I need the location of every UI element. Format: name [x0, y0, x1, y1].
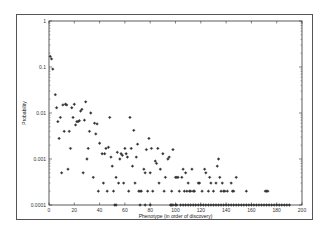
data-point — [204, 171, 207, 174]
y-tick-label: 0.1 — [39, 64, 46, 70]
data-point — [60, 171, 63, 174]
data-point — [130, 147, 133, 150]
data-point — [83, 119, 86, 122]
data-point — [180, 176, 183, 179]
data-point — [221, 182, 224, 185]
data-point — [87, 147, 90, 150]
data-point — [207, 190, 210, 193]
data-point — [230, 182, 233, 185]
data-point — [127, 190, 130, 193]
data-point — [105, 147, 108, 150]
y-tick-label: 0.01 — [36, 110, 46, 116]
data-point — [88, 130, 91, 133]
data-point — [134, 182, 137, 185]
y-tick-label: 0.001 — [33, 156, 46, 162]
data-point — [245, 190, 248, 193]
data-point — [161, 152, 164, 155]
data-point — [212, 190, 215, 193]
data-point — [67, 168, 70, 171]
data-point — [159, 168, 162, 171]
data-point — [115, 176, 118, 179]
data-point — [74, 124, 77, 127]
x-tick-label: 180 — [273, 207, 282, 213]
data-point — [70, 106, 73, 109]
y-axis-label: Probability — [21, 101, 27, 125]
data-point — [145, 148, 148, 151]
data-point — [132, 129, 135, 132]
data-point — [148, 137, 151, 140]
data-point — [84, 100, 87, 103]
data-point — [89, 112, 92, 115]
data-point — [98, 142, 101, 145]
data-point — [117, 182, 120, 185]
data-point — [216, 165, 219, 168]
data-point — [184, 171, 187, 174]
data-point — [73, 103, 76, 106]
data-point — [97, 190, 100, 193]
data-point — [142, 168, 145, 171]
data-point — [163, 190, 166, 193]
x-tick-label: 60 — [122, 207, 128, 213]
data-point — [131, 165, 134, 168]
data-point — [58, 137, 61, 140]
data-point — [178, 190, 181, 193]
data-point — [92, 176, 95, 179]
data-point — [154, 160, 157, 163]
data-point — [103, 152, 106, 155]
data-point — [62, 103, 65, 106]
x-tick-label: 200 — [298, 207, 307, 213]
data-point — [149, 171, 152, 174]
data-point — [203, 168, 206, 171]
data-point — [191, 168, 194, 171]
x-tick-label: 40 — [97, 207, 103, 213]
data-point — [112, 190, 115, 193]
data-point — [54, 93, 57, 96]
data-point — [135, 156, 138, 159]
data-point — [149, 204, 152, 207]
data-point — [158, 182, 161, 185]
data-point — [201, 190, 204, 193]
data-point — [111, 165, 114, 168]
data-point — [68, 130, 71, 133]
y-tick-label: 0.0001 — [31, 202, 47, 208]
data-point — [155, 162, 158, 165]
x-tick-label: 0 — [48, 207, 51, 213]
data-point — [116, 151, 119, 154]
data-point — [110, 156, 113, 159]
data-point — [172, 148, 175, 151]
data-point — [86, 158, 89, 161]
x-axis-label: Phenotype (in order of discovery) — [139, 213, 213, 219]
data-point — [215, 182, 218, 185]
scatter-chart: 0204060801001201401601802000.00010.0010.… — [0, 0, 324, 232]
data-point — [122, 182, 125, 185]
data-point — [102, 182, 105, 185]
data-point — [139, 204, 142, 207]
data-point — [50, 57, 53, 60]
data-point — [156, 147, 159, 150]
data-point — [129, 116, 132, 119]
data-point — [288, 204, 291, 207]
data-point — [82, 171, 85, 174]
data-point — [217, 158, 220, 161]
data-point — [72, 116, 75, 119]
data-point — [106, 190, 109, 193]
data-point — [136, 143, 139, 146]
data-point — [94, 133, 97, 136]
data-point — [208, 176, 211, 179]
data-point — [170, 190, 173, 193]
data-point — [126, 156, 129, 159]
data-point — [146, 190, 149, 193]
data-point — [164, 176, 167, 179]
data-point — [187, 182, 190, 185]
data-point — [63, 130, 66, 133]
data-point — [144, 204, 147, 207]
data-point — [96, 122, 99, 125]
data-point — [118, 158, 121, 161]
data-point — [124, 147, 127, 150]
data-point — [226, 190, 229, 193]
data-point — [93, 122, 96, 125]
data-point — [125, 152, 128, 155]
x-tick-label: 160 — [247, 207, 256, 213]
data-point — [235, 176, 238, 179]
data-point — [151, 190, 154, 193]
